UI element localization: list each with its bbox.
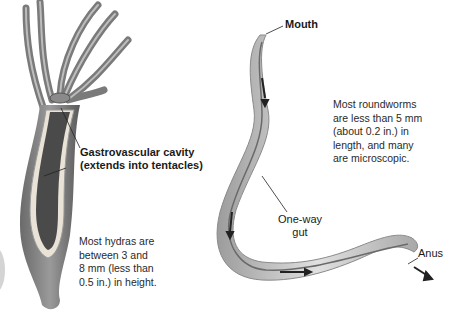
partial-organism-edge	[0, 248, 5, 292]
roundworm-size-note: Most roundworms are less than 5 mm (abou…	[333, 98, 422, 166]
anus-label: Anus	[418, 247, 443, 260]
mouth-label: Mouth	[285, 18, 318, 31]
hydra-size-note: Most hydras are between 3 and 8 mm (less…	[79, 235, 157, 289]
gastrovascular-cavity-label: Gastrovascular cavity (extends into tent…	[80, 146, 203, 172]
one-way-gut-label: One-way gut	[275, 213, 325, 239]
